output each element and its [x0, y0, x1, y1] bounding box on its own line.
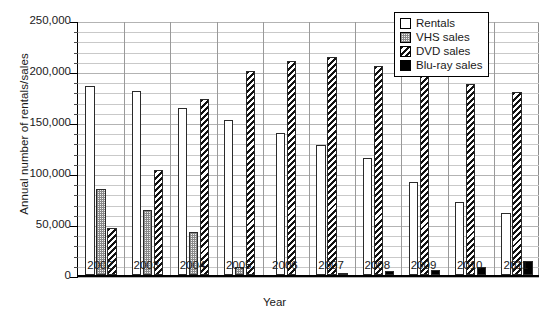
y-axis-tick-label: 150,000 [5, 116, 71, 128]
gridline [78, 277, 539, 278]
y-tick [74, 185, 78, 186]
legend-swatch-icon [400, 18, 411, 29]
chart-figure: Annual number of rentals/sales Year 050,… [0, 0, 549, 316]
x-axis-tick-label-2003: 2003 [134, 259, 160, 271]
chart-legend: RentalsVHS salesDVD salesBlu-ray sales [394, 12, 489, 77]
y-tick [70, 73, 78, 74]
y-tick [74, 206, 78, 207]
legend-item-vhs-sales[interactable]: VHS sales [400, 30, 482, 44]
group-separator [494, 22, 495, 275]
bar-rentals-2006 [276, 133, 286, 275]
y-tick [74, 83, 78, 84]
legend-item-rentals[interactable]: Rentals [400, 16, 482, 30]
bar-dvd-sales-2007 [327, 57, 337, 275]
group-separator [170, 22, 171, 275]
x-axis-tick-label-2005: 2005 [226, 259, 252, 271]
legend-label: Blu-ray sales [416, 59, 482, 71]
group-separator [124, 22, 125, 275]
y-tick [74, 155, 78, 156]
bar-dvd-sales-2011 [512, 92, 522, 275]
legend-swatch-icon [400, 46, 411, 57]
bar-blu-ray-sales-2007 [338, 273, 348, 275]
y-tick [74, 195, 78, 196]
y-tick [70, 175, 78, 176]
y-tick [70, 22, 78, 23]
y-tick [74, 246, 78, 247]
legend-swatch-icon [400, 32, 411, 43]
bar-rentals-2004 [178, 108, 188, 275]
bar-blu-ray-sales-2008 [385, 271, 395, 275]
y-tick [74, 93, 78, 94]
y-tick [70, 277, 78, 278]
legend-swatch-icon [400, 60, 411, 71]
group-separator [263, 22, 264, 275]
x-axis-title: Year [0, 296, 549, 308]
x-axis-tick-label-2009: 2009 [411, 259, 437, 271]
bar-rentals-2008 [363, 158, 373, 275]
legend-label: VHS sales [416, 31, 470, 43]
legend-label: Rentals [416, 17, 455, 29]
x-axis-tick-label-2010: 2010 [457, 259, 483, 271]
y-tick [74, 114, 78, 115]
y-tick [74, 42, 78, 43]
y-tick [70, 124, 78, 125]
y-axis-tick-label: 100,000 [5, 167, 71, 179]
legend-item-blu-ray-sales[interactable]: Blu-ray sales [400, 58, 482, 72]
group-separator [309, 22, 310, 275]
bar-dvd-sales-2005 [246, 71, 256, 275]
y-axis-tick-label: 250,000 [5, 14, 71, 26]
x-axis-tick-label-2007: 2007 [318, 259, 344, 271]
bar-rentals-2007 [316, 145, 326, 275]
y-tick [74, 63, 78, 64]
y-tick [74, 53, 78, 54]
y-tick [74, 144, 78, 145]
y-tick [74, 257, 78, 258]
y-axis-tick-label: 200,000 [5, 65, 71, 77]
y-axis-tick-label: 0 [5, 269, 71, 281]
bar-dvd-sales-2006 [287, 61, 297, 275]
x-axis-tick-label-2011: 2011 [504, 259, 529, 271]
bar-rentals-2005 [224, 120, 234, 275]
y-tick [70, 226, 78, 227]
group-separator [355, 22, 356, 275]
bar-dvd-sales-2009 [420, 75, 430, 275]
legend-label: DVD sales [416, 45, 470, 57]
bar-dvd-sales-2004 [200, 99, 210, 275]
y-tick [74, 267, 78, 268]
y-tick [74, 216, 78, 217]
group-separator [217, 22, 218, 275]
y-tick [74, 32, 78, 33]
bar-dvd-sales-2010 [466, 84, 476, 275]
x-axis-tick-label-2006: 2006 [272, 259, 298, 271]
legend-item-dvd-sales[interactable]: DVD sales [400, 44, 482, 58]
x-axis-tick-label-2002: 2002 [87, 259, 113, 271]
bar-rentals-2002 [85, 86, 95, 275]
bar-dvd-sales-2008 [374, 66, 384, 275]
bar-rentals-2003 [132, 91, 142, 275]
y-tick [74, 104, 78, 105]
y-tick [74, 165, 78, 166]
x-axis-tick-label-2004: 2004 [180, 259, 206, 271]
y-tick [74, 236, 78, 237]
y-axis-tick-label: 50,000 [5, 218, 71, 230]
x-axis-tick-label-2008: 2008 [365, 259, 391, 271]
y-tick [74, 134, 78, 135]
